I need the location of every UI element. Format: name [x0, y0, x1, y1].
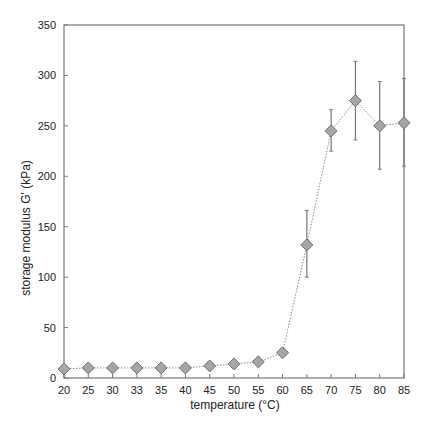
x-tick-label: 65: [301, 384, 313, 396]
diamond-marker: [204, 360, 216, 372]
x-tick-label: 33: [131, 384, 143, 396]
y-tick-label: 350: [38, 19, 56, 31]
x-tick-label: 50: [228, 384, 240, 396]
diamond-marker: [277, 347, 289, 359]
y-tick-label: 150: [38, 221, 56, 233]
data-markers: [58, 95, 410, 375]
diamond-marker: [374, 120, 386, 132]
diamond-marker: [252, 356, 264, 368]
diamond-marker: [325, 125, 337, 137]
diamond-marker: [82, 362, 94, 374]
diamond-marker: [155, 362, 167, 374]
x-tick-label: 40: [179, 384, 191, 396]
diamond-marker: [398, 117, 410, 129]
y-tick-label: 200: [38, 170, 56, 182]
x-tick-label: 85: [398, 384, 410, 396]
y-tick-label: 100: [38, 271, 56, 283]
diamond-marker: [179, 362, 191, 374]
x-tick-label: 35: [155, 384, 167, 396]
diamond-marker: [131, 362, 143, 374]
diamond-marker: [107, 362, 119, 374]
diamond-marker: [58, 363, 70, 375]
x-tick-label: 45: [204, 384, 216, 396]
x-tick-label: 55: [252, 384, 264, 396]
series-line: [64, 101, 404, 369]
x-axis-label: temperature (°C): [190, 398, 280, 412]
x-tick-label: 75: [349, 384, 361, 396]
x-tick-label: 80: [374, 384, 386, 396]
y-axis-label: storage modulus G' (kPa): [19, 160, 33, 296]
x-tick-label: 60: [276, 384, 288, 396]
x-tick-label: 20: [58, 384, 70, 396]
y-tick-label: 300: [38, 69, 56, 81]
x-tick-label: 30: [106, 384, 118, 396]
plot-border: [64, 25, 404, 378]
error-bars: [281, 61, 406, 356]
x-tick-label: 25: [82, 384, 94, 396]
x-axis-ticks: 202530333540455055606570758085: [58, 374, 410, 396]
diamond-marker: [228, 358, 240, 370]
plot-frame: [64, 25, 404, 378]
chart: 050100150200250300350 202530333540455055…: [0, 0, 431, 429]
data-line: [64, 101, 404, 369]
diamond-marker: [301, 239, 313, 251]
y-tick-label: 50: [44, 322, 56, 334]
x-tick-label: 70: [325, 384, 337, 396]
y-tick-label: 0: [50, 372, 56, 384]
y-tick-label: 250: [38, 120, 56, 132]
